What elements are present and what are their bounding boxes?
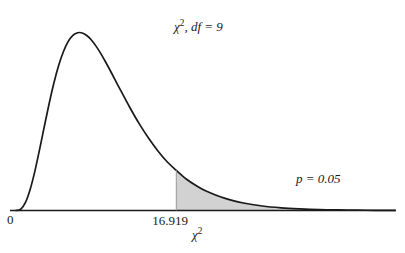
- distribution-label: χ2, df = 9: [174, 19, 223, 33]
- chi-square-plot-svg: [0, 0, 405, 253]
- x-axis-label: χ2: [192, 227, 202, 241]
- critical-value-tick-label: 16.919: [152, 214, 188, 227]
- origin-tick-label: 0: [7, 213, 14, 226]
- distribution-label-df: , df = 9: [184, 19, 222, 34]
- chi-square-distribution-figure: χ2, df = 9 p = 0.05 0 χ2 16.919: [0, 0, 405, 253]
- tail-shaded-region: [176, 170, 395, 210]
- p-value-label: p = 0.05: [296, 172, 341, 185]
- x-axis-label-exponent: 2: [198, 226, 203, 236]
